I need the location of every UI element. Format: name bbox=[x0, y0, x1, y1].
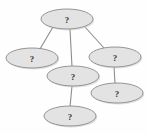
node-left[interactable]: ? bbox=[6, 48, 59, 69]
edge-top-to-right bbox=[85, 27, 104, 48]
node-left-label: ? bbox=[30, 54, 35, 64]
nodes-layer: ?????? bbox=[6, 9, 144, 127]
edge-right-to-lower-right bbox=[114, 66, 115, 84]
node-lower-right[interactable]: ? bbox=[91, 83, 144, 104]
diagram-canvas: ?????? bbox=[0, 0, 147, 134]
node-middle[interactable]: ? bbox=[47, 66, 100, 87]
node-top-label: ? bbox=[65, 15, 70, 25]
node-bottom[interactable]: ? bbox=[44, 106, 97, 127]
node-bottom-label: ? bbox=[68, 112, 73, 122]
node-lower-right-label: ? bbox=[115, 89, 120, 99]
node-top[interactable]: ? bbox=[41, 9, 94, 30]
edge-middle-to-bottom bbox=[70, 86, 72, 107]
edge-top-to-middle bbox=[70, 29, 72, 67]
node-right[interactable]: ? bbox=[89, 47, 142, 68]
node-middle-label: ? bbox=[71, 72, 76, 82]
node-right-label: ? bbox=[113, 53, 118, 63]
edge-top-to-left bbox=[40, 27, 53, 49]
graph-svg: ?????? bbox=[0, 0, 147, 134]
